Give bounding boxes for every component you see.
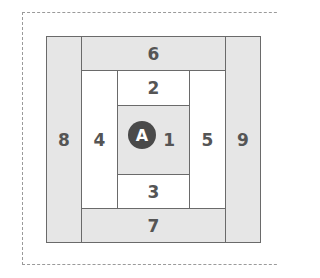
marker-a-label: A <box>136 126 148 145</box>
block-2: 2 <box>117 70 190 106</box>
marker-a-badge: A <box>128 121 156 149</box>
block-6: 6 <box>81 36 226 71</box>
block-8-label: 8 <box>58 130 70 150</box>
block-3: 3 <box>117 174 190 209</box>
block-6-label: 6 <box>148 44 160 64</box>
block-9-label: 9 <box>237 130 249 150</box>
block-2-label: 2 <box>148 78 160 98</box>
block-4: 4 <box>81 70 118 209</box>
block-5-label: 5 <box>202 130 214 150</box>
block-4-label: 4 <box>94 130 106 150</box>
block-7-label: 7 <box>148 216 160 236</box>
block-8: 8 <box>46 36 82 243</box>
block-5: 5 <box>189 70 226 209</box>
block-9: 9 <box>225 36 261 243</box>
block-3-label: 3 <box>148 182 160 202</box>
block-1-label: 1 <box>163 130 175 150</box>
block-7: 7 <box>81 208 226 243</box>
